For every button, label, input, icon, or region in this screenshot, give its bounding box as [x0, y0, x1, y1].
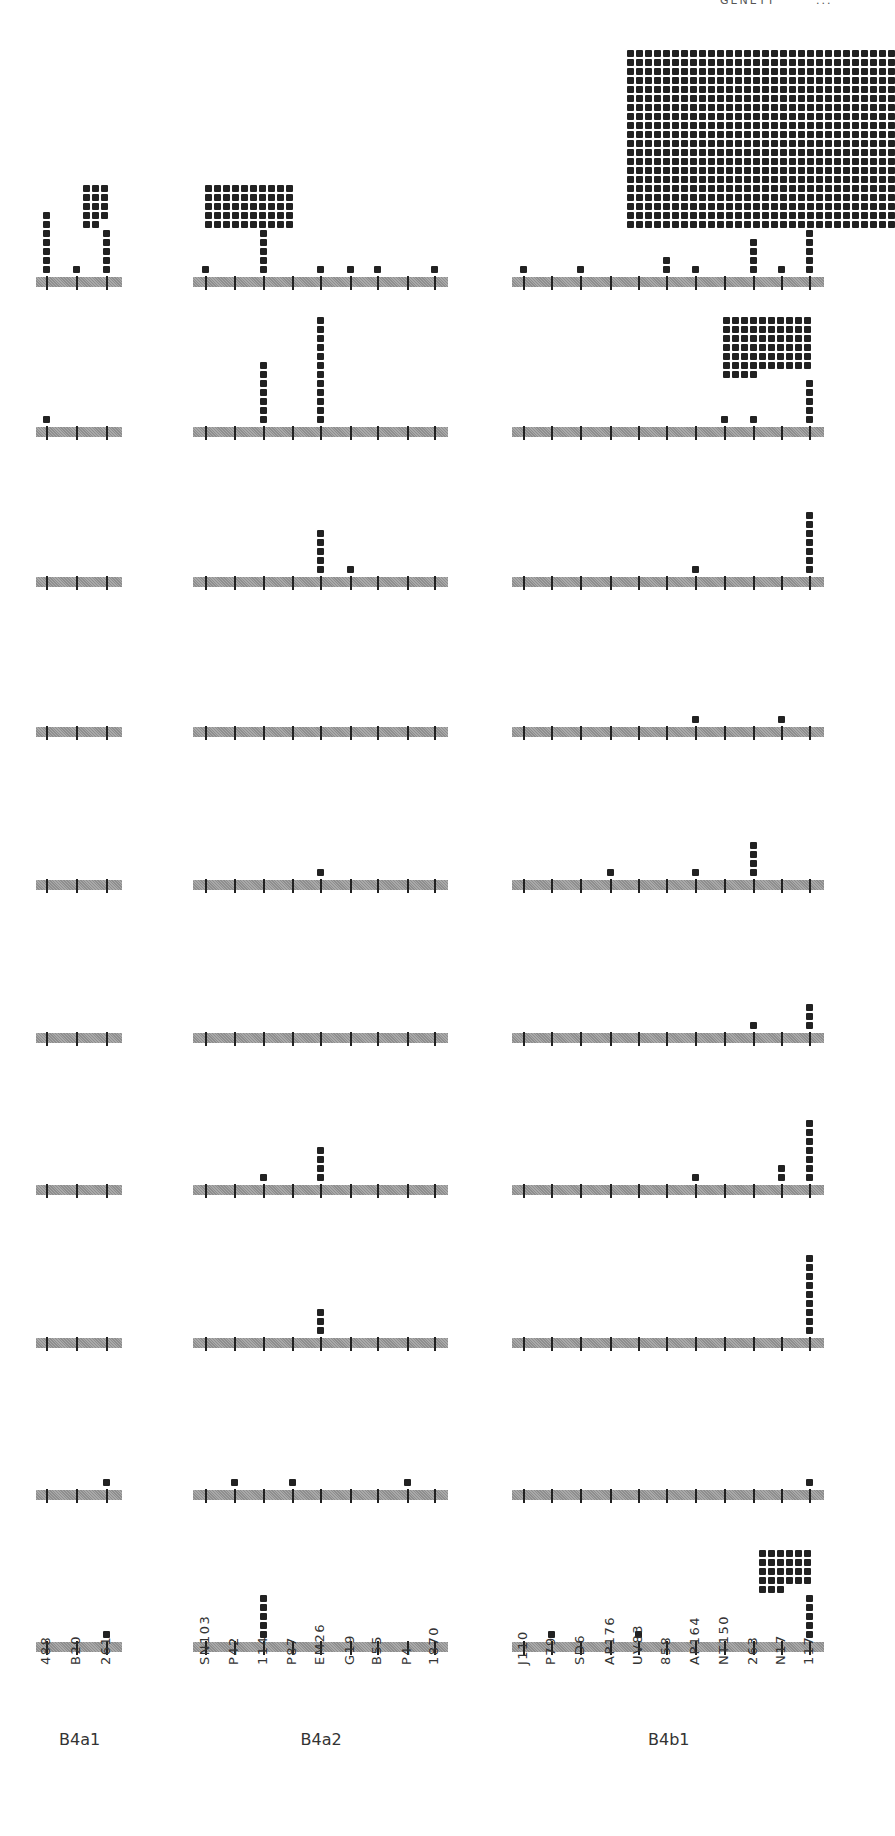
tick-mark	[551, 276, 553, 290]
tick-mark	[809, 726, 811, 740]
tick-mark	[610, 1337, 612, 1351]
tick-mark	[234, 879, 236, 893]
axis-b4a2-row-5	[193, 880, 448, 890]
tick-mark	[350, 1032, 352, 1046]
tick-mark	[350, 576, 352, 590]
tick-mark	[638, 576, 640, 590]
tick-mark	[724, 879, 726, 893]
tick-mark	[610, 1032, 612, 1046]
tick-mark	[809, 1337, 811, 1351]
axis-b4a2-row-9	[193, 1490, 448, 1500]
axis-b4a2-row-8	[193, 1338, 448, 1348]
tick-mark	[106, 1489, 108, 1503]
tick-mark	[106, 426, 108, 440]
tick-mark	[377, 1337, 379, 1351]
tick-mark	[695, 426, 697, 440]
tick-mark	[724, 1184, 726, 1198]
axis-b4b1-row-7	[512, 1185, 824, 1195]
count-stack-ap164	[692, 1172, 699, 1181]
count-stack-em26	[317, 315, 324, 423]
tick-mark	[263, 1337, 265, 1351]
tick-mark	[377, 276, 379, 290]
sample-label: J110	[515, 1630, 530, 1665]
tick-mark	[580, 1032, 582, 1046]
tick-mark	[263, 276, 265, 290]
axis-b4b1-row-4	[512, 727, 824, 737]
count-stack-ap164	[692, 564, 699, 573]
tick-mark	[610, 879, 612, 893]
tick-mark	[350, 1184, 352, 1198]
tick-mark	[638, 879, 640, 893]
tick-mark	[551, 576, 553, 590]
tick-mark	[610, 1489, 612, 1503]
tick-mark	[523, 276, 525, 290]
tick-mark	[106, 576, 108, 590]
tick-mark	[46, 1489, 48, 1503]
tick-mark	[523, 1184, 525, 1198]
tick-mark	[407, 426, 409, 440]
tick-mark	[580, 1337, 582, 1351]
count-stack-263	[750, 1020, 757, 1029]
tick-mark	[666, 426, 668, 440]
tick-mark	[610, 726, 612, 740]
tick-mark	[580, 879, 582, 893]
tick-mark	[638, 426, 640, 440]
tick-mark	[320, 1489, 322, 1503]
tick-mark	[809, 426, 811, 440]
count-stack-g19	[347, 564, 354, 573]
count-stack-b55	[374, 264, 381, 273]
sample-label: P4	[399, 1646, 414, 1665]
tick-mark	[666, 726, 668, 740]
tick-mark	[523, 879, 525, 893]
tick-mark	[724, 426, 726, 440]
tick-mark	[551, 879, 553, 893]
axis-b4a2-row-7	[193, 1185, 448, 1195]
tick-mark	[76, 276, 78, 290]
tick-mark	[809, 879, 811, 893]
tick-mark	[666, 1337, 668, 1351]
count-stack-261	[103, 1477, 110, 1486]
tick-mark	[523, 1489, 525, 1503]
tick-mark	[320, 726, 322, 740]
tick-mark	[434, 1337, 436, 1351]
tick-mark	[320, 276, 322, 290]
tick-mark	[638, 276, 640, 290]
count-stack-117	[806, 378, 813, 423]
sample-label: P42	[226, 1636, 241, 1665]
count-stack-p4	[404, 1477, 411, 1486]
count-stack-n17	[778, 264, 785, 273]
tick-mark	[580, 726, 582, 740]
tick-mark	[263, 426, 265, 440]
count-stack-sd6	[577, 264, 584, 273]
count-stack-114	[260, 1593, 267, 1638]
count-stack-117	[806, 1477, 813, 1486]
tick-mark	[234, 576, 236, 590]
sample-label: AP176	[602, 1616, 617, 1665]
tick-mark	[638, 1184, 640, 1198]
tick-mark	[46, 426, 48, 440]
tick-mark	[292, 1184, 294, 1198]
tick-mark	[666, 1489, 668, 1503]
tick-mark	[407, 1184, 409, 1198]
tick-mark	[76, 726, 78, 740]
tick-mark	[434, 276, 436, 290]
tick-mark	[46, 879, 48, 893]
tick-mark	[407, 276, 409, 290]
axis-b4b1-row-3	[512, 577, 824, 587]
sample-label: P79	[543, 1636, 558, 1665]
count-stack-488	[43, 414, 50, 423]
tick-mark	[292, 276, 294, 290]
sample-label: P87	[284, 1636, 299, 1665]
tick-mark	[46, 726, 48, 740]
count-stack-em26	[317, 264, 324, 273]
tick-mark	[46, 276, 48, 290]
tick-mark	[666, 879, 668, 893]
tick-mark	[234, 726, 236, 740]
count-stack-114	[260, 228, 267, 273]
tick-mark	[695, 1337, 697, 1351]
tick-mark	[781, 1337, 783, 1351]
tick-mark	[434, 1489, 436, 1503]
count-stack-ap164	[692, 867, 699, 876]
sample-label: 117	[801, 1636, 816, 1665]
count-stack-488	[43, 210, 50, 273]
